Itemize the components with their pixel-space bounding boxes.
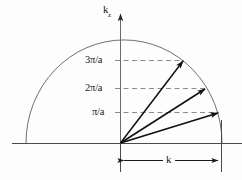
tick-label-3pi-over-a: 3π/a (85, 54, 102, 65)
semicircle-arc (26, 40, 222, 143)
vector-arrow-pi-over-a (121, 113, 219, 143)
tick-label-pi-over-a: π/a (92, 106, 104, 117)
figure-canvas: kz 3π/a 2π/a π/a k (0, 0, 242, 180)
vertical-axis-label-subscript: z (108, 11, 111, 19)
vertical-axis-label: kz (103, 3, 112, 18)
diagram-svg (0, 0, 242, 180)
tick-label-2pi-over-a: 2π/a (85, 82, 102, 93)
vector-arrow-2pi-over-a (121, 89, 206, 143)
vector-arrow-3pi-over-a (121, 61, 184, 143)
measurement-label: k (163, 153, 175, 165)
